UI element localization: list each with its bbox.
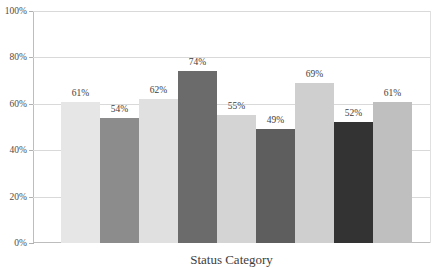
gridline-80 bbox=[33, 57, 430, 58]
gridline-100 bbox=[33, 11, 430, 12]
bar-3 bbox=[139, 99, 178, 243]
plot-right-border bbox=[430, 11, 431, 243]
bar-value-label-1: 61% bbox=[61, 88, 100, 99]
y-axis-tick-label: 0% bbox=[14, 238, 27, 248]
bar-5 bbox=[217, 115, 256, 243]
bar-value-label-8: 52% bbox=[334, 108, 373, 119]
x-axis-title: Status Category bbox=[33, 252, 430, 267]
bar-7 bbox=[295, 83, 334, 243]
plot-area: 61% 54% 62% 74% 55% 49% 69% 52% 61% bbox=[33, 11, 430, 243]
bar-4 bbox=[178, 71, 217, 243]
bar-6 bbox=[256, 129, 295, 243]
bar-value-label-5: 55% bbox=[217, 101, 256, 112]
y-axis-labels: 100% 80% 60% 40% 20% 0% bbox=[0, 0, 27, 267]
bar-value-label-4: 74% bbox=[178, 57, 217, 68]
y-axis-tick-label: 80% bbox=[10, 52, 27, 62]
bar-2 bbox=[100, 118, 139, 243]
bar-8 bbox=[334, 122, 373, 243]
bar-9 bbox=[373, 102, 412, 243]
bar-value-label-3: 62% bbox=[139, 85, 178, 96]
bar-value-label-7: 69% bbox=[295, 69, 334, 80]
y-axis-tick-label: 20% bbox=[10, 192, 27, 202]
y-axis-tick-mark bbox=[29, 243, 34, 244]
bar-value-label-9: 61% bbox=[373, 88, 412, 99]
y-axis-tick-label: 40% bbox=[10, 145, 27, 155]
y-axis-tick-label: 60% bbox=[10, 99, 27, 109]
bar-1 bbox=[61, 102, 100, 243]
y-axis-tick-label: 100% bbox=[5, 6, 27, 16]
bar-chart: 100% 80% 60% 40% 20% 0% 61% 54% 62% 74% … bbox=[0, 0, 443, 267]
bar-value-label-6: 49% bbox=[256, 115, 295, 126]
bar-value-label-2: 54% bbox=[100, 104, 139, 115]
